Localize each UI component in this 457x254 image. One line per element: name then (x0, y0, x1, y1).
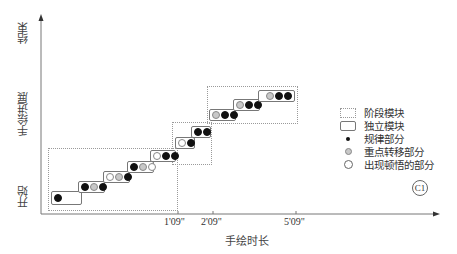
regular-dot-icon (99, 183, 107, 191)
regular-dot-icon (171, 152, 179, 160)
regular-dot-icon (124, 173, 132, 181)
regular-dot-icon (230, 111, 238, 119)
independent-module (150, 150, 176, 162)
independent-module (258, 90, 295, 102)
x-tick-2: 2'09" (201, 216, 222, 227)
insight-dot-icon (178, 139, 186, 147)
y-axis-start-label: 开始 (16, 186, 32, 208)
black-dot-icon (346, 137, 350, 141)
independent-module (51, 191, 82, 205)
independent-module (191, 126, 211, 138)
independent-module (175, 137, 195, 149)
regular-dot-icon (284, 92, 292, 100)
case-badge: C1 (412, 180, 428, 196)
insight-dot-icon (153, 152, 161, 160)
regular-dot-icon (245, 101, 253, 109)
regular-dot-icon (130, 163, 138, 171)
legend-item-insight: 出现顿悟的部分 (340, 158, 434, 171)
focus-dot-icon (139, 163, 147, 171)
y-axis-end-label: 结束 (16, 22, 32, 44)
focus-dot-icon (212, 111, 220, 119)
x-tick-1: 1'09" (164, 216, 185, 227)
regular-dot-icon (203, 128, 211, 136)
regular-dot-icon (221, 111, 229, 119)
regular-dot-icon (187, 139, 195, 147)
dotted-rect-icon (340, 108, 356, 118)
independent-module (209, 109, 236, 121)
x-tick-3: 5'09" (284, 216, 305, 227)
regular-dot-icon (194, 128, 202, 136)
legend: 阶段模块 独立模块 规律部分 重点转移部分 出现顿悟的部分 (340, 106, 434, 171)
insight-dot-icon (148, 163, 156, 171)
regular-dot-icon (54, 194, 62, 202)
independent-module (127, 161, 154, 173)
solid-rect-icon (340, 121, 356, 131)
gray-dot-icon (345, 148, 352, 155)
focus-dot-icon (115, 173, 123, 181)
y-axis-title: 手绘进展 (16, 92, 32, 136)
regular-dot-icon (162, 152, 170, 160)
independent-module (103, 171, 130, 183)
independent-module (233, 99, 260, 111)
independent-module (78, 181, 105, 193)
insight-dot-icon (106, 173, 114, 181)
regular-dot-icon (254, 101, 262, 109)
hollow-dot-icon (344, 160, 353, 169)
regular-dot-icon (81, 183, 89, 191)
focus-dot-icon (90, 183, 98, 191)
focus-dot-icon (236, 101, 244, 109)
focus-dot-icon (266, 92, 274, 100)
x-axis-title: 手绘时长 (225, 232, 269, 248)
regular-dot-icon (275, 92, 283, 100)
